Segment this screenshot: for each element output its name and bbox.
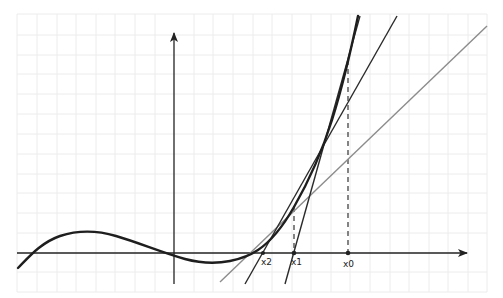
grid xyxy=(17,14,487,292)
point-x1 xyxy=(292,251,297,256)
newton-method-diagram: x2 x1 x0 xyxy=(0,0,503,298)
label-x0: x0 xyxy=(343,260,354,269)
diagram-canvas xyxy=(0,0,503,298)
function-curve xyxy=(18,16,358,268)
point-x0 xyxy=(346,251,351,256)
label-x2: x2 xyxy=(261,258,272,267)
point-x2 xyxy=(261,251,265,255)
label-x1: x1 xyxy=(291,258,302,267)
